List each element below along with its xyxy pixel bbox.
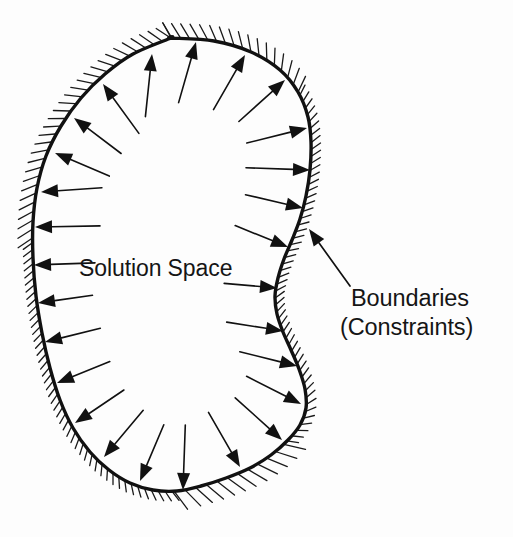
- solution-space-diagram: [0, 0, 513, 537]
- boundaries-leader-line: [309, 229, 350, 286]
- figure-canvas: Solution Space Boundaries (Constraints): [0, 0, 513, 537]
- boundaries-label: Boundaries: [351, 285, 469, 312]
- solution-space-label: Solution Space: [79, 255, 232, 281]
- constraints-label: (Constraints): [340, 314, 473, 341]
